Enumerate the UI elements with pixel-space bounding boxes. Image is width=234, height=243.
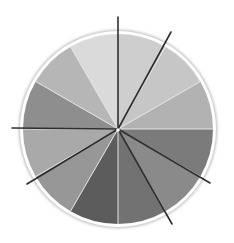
diagram-canvas [0,0,234,243]
center-point-icon [116,128,120,132]
sector-wheel [0,0,234,243]
ray-line [12,128,118,129]
